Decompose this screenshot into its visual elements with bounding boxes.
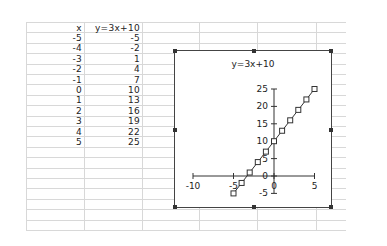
cell-y[interactable]: 4 — [86, 64, 140, 74]
scatter-plot: -10-505-50510152025 — [175, 51, 333, 209]
data-point-marker — [272, 139, 277, 144]
resize-handle[interactable] — [329, 128, 333, 132]
cell-y[interactable]: 22 — [86, 127, 140, 137]
cell-y[interactable]: 25 — [86, 137, 140, 147]
resize-handle[interactable] — [252, 49, 256, 53]
y-tick-label: -5 — [259, 188, 268, 198]
data-point-marker — [288, 118, 293, 123]
column-gridline — [142, 22, 143, 230]
data-point-marker — [239, 180, 244, 185]
resize-handle[interactable] — [173, 128, 177, 132]
cell-x[interactable]: 2 — [28, 106, 82, 116]
cell-x[interactable]: -4 — [28, 43, 82, 53]
header-cell-y[interactable]: y=3x+10 — [86, 23, 140, 33]
resize-handle[interactable] — [173, 205, 177, 209]
cell-y[interactable]: 10 — [86, 85, 140, 95]
resize-handle[interactable] — [252, 205, 256, 209]
data-point-marker — [255, 160, 260, 165]
data-point-marker — [247, 170, 252, 175]
x-tick-label: 5 — [312, 181, 318, 191]
cell-y[interactable]: 7 — [86, 75, 140, 85]
header-cell-x[interactable]: x — [28, 23, 82, 33]
data-point-marker — [304, 97, 309, 102]
resize-handle[interactable] — [329, 205, 333, 209]
cell-x[interactable]: -3 — [28, 54, 82, 64]
row-gridline — [26, 220, 346, 221]
resize-handle[interactable] — [173, 49, 177, 53]
cell-x[interactable]: -2 — [28, 64, 82, 74]
row-gridline — [26, 230, 346, 231]
cell-x[interactable]: -1 — [28, 75, 82, 85]
y-tick-label: 15 — [257, 119, 268, 129]
y-tick-label: 0 — [262, 171, 268, 181]
x-tick-label: 0 — [271, 181, 277, 191]
cell-x[interactable]: 5 — [28, 137, 82, 147]
cell-x[interactable]: 4 — [28, 127, 82, 137]
cell-y[interactable]: -5 — [86, 33, 140, 43]
y-tick-label: 25 — [257, 84, 268, 94]
cell-x[interactable]: 1 — [28, 95, 82, 105]
data-point-marker — [280, 128, 285, 133]
y-tick-label: 10 — [257, 136, 269, 146]
column-gridline — [26, 22, 27, 230]
column-gridline — [84, 22, 85, 230]
cell-y[interactable]: 1 — [86, 54, 140, 64]
cell-x[interactable]: 0 — [28, 85, 82, 95]
data-point-marker — [312, 87, 317, 92]
cell-x[interactable]: -5 — [28, 33, 82, 43]
cell-y[interactable]: 19 — [86, 116, 140, 126]
cell-y[interactable]: -2 — [86, 43, 140, 53]
data-point-marker — [231, 191, 236, 196]
row-gridline — [26, 209, 346, 210]
chart-object[interactable]: y=3x+10 -10-505-50510152025 — [174, 50, 332, 208]
resize-handle[interactable] — [329, 49, 333, 53]
cell-x[interactable]: 3 — [28, 116, 82, 126]
data-point-marker — [296, 107, 301, 112]
cell-y[interactable]: 16 — [86, 106, 140, 116]
y-tick-label: 20 — [257, 101, 269, 111]
x-tick-label: -10 — [186, 181, 201, 191]
cell-y[interactable]: 13 — [86, 95, 140, 105]
data-point-marker — [263, 149, 268, 154]
